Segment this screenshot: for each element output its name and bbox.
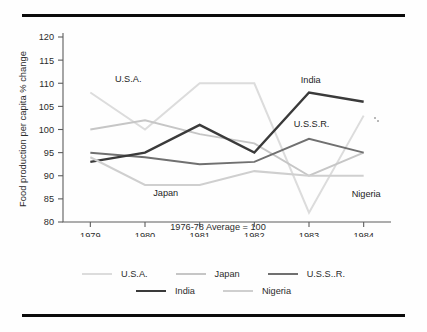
y-tick-label: 105 [39, 102, 54, 112]
series-line-u-s-a [90, 83, 363, 213]
bottom-rule [22, 314, 405, 317]
legend-swatch-line-icon [82, 273, 112, 275]
y-tick-label: 120 [39, 32, 54, 42]
chart-axes [63, 33, 391, 222]
chart-legend: U.S.A.JapanU.S.S..R. IndiaNigeria [0, 265, 427, 307]
line-chart-svg: Food production per capita % change 8085… [0, 22, 427, 237]
legend-row-primary: U.S.A.JapanU.S.S..R. [0, 265, 427, 282]
y-tick-label: 110 [39, 79, 54, 89]
data-series-group [90, 83, 363, 213]
inline-annotations: U.S.A.JapanIndiaU.S.S.R.Nigeria [115, 74, 382, 200]
y-tick-label: 90 [44, 171, 54, 181]
axis-spine [63, 33, 391, 222]
scan-artifact [374, 117, 379, 122]
y-tick-label: 85 [44, 194, 54, 204]
legend-swatch-line-icon [268, 273, 298, 275]
legend-label: U.S.S..R. [307, 269, 345, 279]
legend-item[interactable]: Nigeria [223, 286, 291, 296]
x-tick-label: 1980 [135, 231, 155, 237]
legend-label: India [175, 286, 195, 296]
series-line-u-s-s-r [90, 139, 363, 164]
plot-area: Food production per capita % change 8085… [0, 22, 427, 237]
legend-swatch-line-icon [176, 273, 206, 275]
legend-label: Nigeria [262, 286, 291, 296]
y-axis-ticks: 80859095100105110115120 [39, 32, 63, 227]
y-tick-label: 80 [44, 217, 54, 227]
svg-text:1976-78 Average = 100: 1976-78 Average = 100 [170, 222, 266, 232]
x-tick-label: 1979 [80, 231, 100, 237]
legend-item[interactable]: U.S.A. [82, 269, 148, 279]
y-tick-label: 115 [39, 56, 54, 66]
x-axis-title: 1976-78 Average = 100 [170, 222, 266, 232]
y-axis-label: Food production per capita % change [17, 51, 28, 207]
x-tick-label: 1984 [353, 231, 373, 237]
series-inline-label: India [301, 75, 322, 85]
legend-swatch-line-icon [136, 290, 166, 292]
legend-item[interactable]: Japan [176, 269, 240, 279]
top-rule [22, 14, 405, 17]
x-tick-label: 1983 [299, 231, 319, 237]
legend-swatch-line-icon [223, 290, 253, 292]
y-tick-label: 100 [39, 125, 54, 135]
series-inline-label: U.S.A. [115, 74, 142, 84]
legend-item[interactable]: U.S.S..R. [268, 269, 345, 279]
legend-label: U.S.A. [121, 269, 148, 279]
legend-row-secondary: IndiaNigeria [0, 282, 427, 299]
series-inline-label: Nigeria [352, 189, 382, 199]
series-line-nigeria [90, 157, 363, 185]
svg-text:Food production per capita % c: Food production per capita % change [17, 51, 28, 207]
legend-label: Japan [215, 269, 240, 279]
series-inline-label: Japan [153, 188, 178, 198]
series-inline-label: U.S.S.R. [294, 119, 330, 129]
chart-figure: Food production per capita % change 8085… [0, 0, 427, 332]
legend-item[interactable]: India [136, 286, 195, 296]
y-tick-label: 95 [44, 148, 54, 158]
